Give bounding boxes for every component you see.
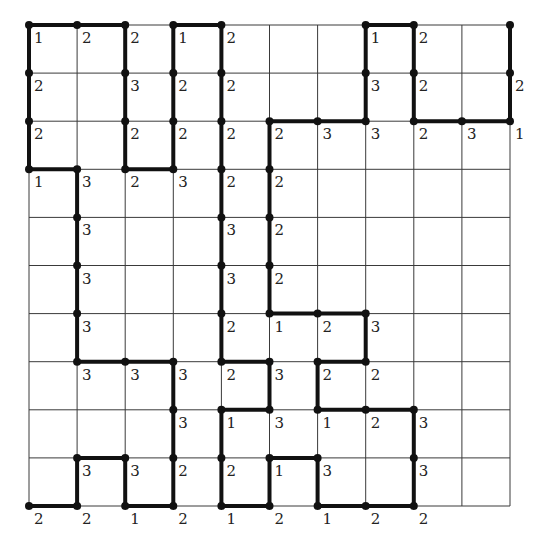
path-vertex-dot [362, 21, 370, 29]
vertex-clue-number: 3 [419, 462, 429, 480]
vertex-clue-number: 1 [371, 29, 381, 47]
path-vertex-dot [121, 165, 129, 173]
path-vertex-dot [217, 310, 225, 318]
path-vertex-dot [410, 117, 418, 125]
path-vertex-dot [169, 165, 177, 173]
path-vertex-dot [169, 21, 177, 29]
vertex-clue-number: 2 [419, 125, 429, 143]
path-vertex-dot [169, 406, 177, 414]
vertex-clue-number: 2 [419, 77, 429, 95]
vertex-clue-number: 2 [130, 125, 140, 143]
path-vertex-dot [506, 117, 514, 125]
path-vertex-dot [410, 406, 418, 414]
path-vertex-dot [458, 117, 466, 125]
vertex-clue-number: 3 [371, 318, 381, 336]
path-vertex-dot [121, 502, 129, 510]
vertex-clue-number: 3 [371, 125, 381, 143]
path-vertex-dot [25, 117, 33, 125]
vertex-clue-number: 3 [130, 77, 140, 95]
path-vertex-dot [217, 117, 225, 125]
vertex-clue-number: 2 [82, 510, 92, 528]
vertex-clue-number: 2 [323, 366, 333, 384]
vertex-clue-number: 3 [275, 366, 285, 384]
path-vertex-dot [169, 502, 177, 510]
vertex-clue-number: 3 [467, 125, 477, 143]
vertex-clue-number: 3 [371, 77, 381, 95]
vertex-clue-number: 2 [371, 510, 381, 528]
vertex-clue-number: 3 [82, 318, 92, 336]
path-vertex-dot [217, 502, 225, 510]
vertex-clue-number: 3 [82, 173, 92, 191]
vertex-clue-number: 2 [34, 510, 44, 528]
path-vertex-dot [314, 406, 322, 414]
vertex-clue-number: 1 [130, 510, 140, 528]
vertex-clue-number: 3 [226, 270, 236, 288]
slitherlink-puzzle-board: 1221212232232222222332311323223323323212… [0, 0, 540, 544]
path-vertex-dot [169, 454, 177, 462]
vertex-clue-number: 3 [178, 414, 188, 432]
path-vertex-dot [73, 165, 81, 173]
vertex-clue-number: 2 [371, 366, 381, 384]
vertex-clue-number: 3 [275, 414, 285, 432]
vertex-clue-number: 2 [178, 77, 188, 95]
path-vertex-dot [169, 117, 177, 125]
vertex-clue-number: 3 [178, 173, 188, 191]
path-vertex-dot [506, 69, 514, 77]
path-vertex-dot [25, 165, 33, 173]
path-vertex-dot [362, 502, 370, 510]
vertex-clue-number: 2 [419, 510, 429, 528]
vertex-clue-number: 2 [226, 462, 236, 480]
vertex-clue-number: 2 [275, 125, 285, 143]
vertex-clue-number: 2 [226, 77, 236, 95]
path-vertex-dot [73, 454, 81, 462]
path-vertex-dot [314, 454, 322, 462]
vertex-clue-number: 3 [178, 366, 188, 384]
path-vertex-dot [506, 21, 514, 29]
path-vertex-dot [217, 165, 225, 173]
vertex-clue-number: 2 [226, 29, 236, 47]
vertex-clue-number: 2 [419, 29, 429, 47]
vertex-clue-number: 2 [226, 173, 236, 191]
vertex-clue-number: 1 [275, 318, 285, 336]
vertex-clue-number: 3 [82, 462, 92, 480]
vertex-clue-number: 2 [130, 173, 140, 191]
vertex-clue-number: 2 [275, 270, 285, 288]
path-vertex-dot [73, 358, 81, 366]
path-vertex-dot [266, 358, 274, 366]
path-vertex-dot [410, 502, 418, 510]
vertex-clue-number: 2 [82, 29, 92, 47]
path-vertex-dot [362, 406, 370, 414]
path-vertex-dot [266, 310, 274, 318]
vertex-clue-number: 2 [515, 77, 525, 95]
vertex-clue-number: 3 [82, 270, 92, 288]
vertex-clue-number: 3 [130, 366, 140, 384]
vertex-clue-number: 2 [34, 125, 44, 143]
vertex-clue-number: 1 [178, 29, 188, 47]
vertex-clues: 1221212232232222222332311323223323323212… [34, 29, 525, 528]
vertex-clue-number: 2 [323, 318, 333, 336]
path-vertex-dot [121, 117, 129, 125]
path-vertex-dot [266, 454, 274, 462]
path-vertex-dot [73, 502, 81, 510]
path-vertex-dot [73, 310, 81, 318]
path-vertex-dot [362, 69, 370, 77]
path-vertex-dot [73, 21, 81, 29]
path-vertex-dot [314, 358, 322, 366]
path-vertex-dot [217, 454, 225, 462]
vertex-clue-number: 1 [226, 414, 236, 432]
vertex-clue-number: 3 [82, 366, 92, 384]
path-vertex-dot [266, 502, 274, 510]
vertex-clue-number: 3 [419, 414, 429, 432]
vertex-clue-number: 2 [371, 414, 381, 432]
vertex-clue-number: 2 [275, 510, 285, 528]
path-vertex-dot [362, 310, 370, 318]
vertex-clue-number: 1 [34, 29, 44, 47]
path-vertex-dot [410, 454, 418, 462]
path-vertex-dot [410, 21, 418, 29]
path-vertex-dot [362, 358, 370, 366]
path-vertex-dot [121, 21, 129, 29]
vertex-clue-number: 3 [323, 125, 333, 143]
path-vertex-dot [73, 262, 81, 270]
vertex-clue-number: 2 [178, 510, 188, 528]
path-vertex-dot [266, 262, 274, 270]
